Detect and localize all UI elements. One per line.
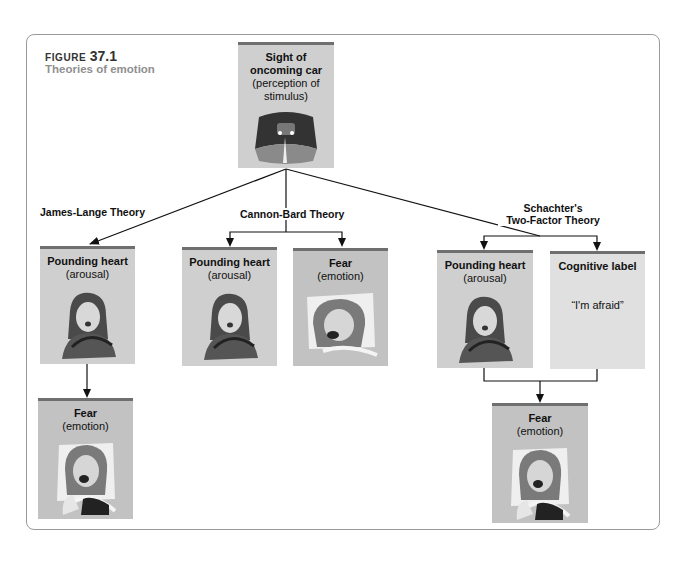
cannon-bard-fear-box: Fear (emotion) xyxy=(293,248,388,366)
schachter-cognitive-label-box: Cognitive label “I'm afraid” xyxy=(550,251,645,369)
schachter-fear-box: Fear (emotion) xyxy=(492,403,588,523)
box-subtitle: (emotion) xyxy=(293,270,388,283)
aroused-man-face-icon xyxy=(56,289,120,361)
stimulus-title: Sight of oncoming car xyxy=(238,45,334,77)
box-title: Fear xyxy=(38,401,133,420)
frightened-woman-face-icon xyxy=(53,439,119,517)
james-lange-theory-label: James-Lange Theory xyxy=(40,206,145,218)
stimulus-box: Sight of oncoming car (perception of sti… xyxy=(238,42,334,168)
box-title: Fear xyxy=(293,251,388,270)
aroused-man-face-icon xyxy=(198,290,262,362)
box-subtitle: (arousal) xyxy=(182,269,277,282)
aroused-man-face-icon xyxy=(453,293,517,365)
box-title: Fear xyxy=(492,406,588,425)
cognitive-label-quote: “I'm afraid” xyxy=(550,299,645,311)
cannon-bard-theory-label: Cannon-Bard Theory xyxy=(238,208,346,220)
box-title: Pounding heart xyxy=(40,249,135,268)
james-lange-fear-box: Fear (emotion) xyxy=(38,398,133,519)
stimulus-subtitle: (perception of stimulus) xyxy=(238,77,334,103)
frightened-woman-face-icon xyxy=(303,289,379,361)
schachter-arousal-box: Pounding heart (arousal) xyxy=(437,250,533,368)
box-subtitle: (emotion) xyxy=(492,425,588,438)
box-subtitle: (arousal) xyxy=(40,268,135,281)
box-title: Cognitive label xyxy=(550,254,645,273)
james-lange-arousal-box: Pounding heart (arousal) xyxy=(40,246,135,364)
cannon-bard-arousal-box: Pounding heart (arousal) xyxy=(182,247,277,366)
schachter-label-line2: Two-Factor Theory xyxy=(506,214,600,226)
oncoming-car-icon xyxy=(251,109,321,165)
schachter-label-line1: Schachter's xyxy=(523,202,582,214)
box-subtitle: (emotion) xyxy=(38,420,133,433)
frightened-woman-face-icon xyxy=(507,444,573,522)
box-subtitle: (arousal) xyxy=(437,272,533,285)
box-title: Pounding heart xyxy=(437,253,533,272)
schachter-theory-label: Schachter's Two-Factor Theory xyxy=(498,202,608,226)
box-title: Pounding heart xyxy=(182,250,277,269)
